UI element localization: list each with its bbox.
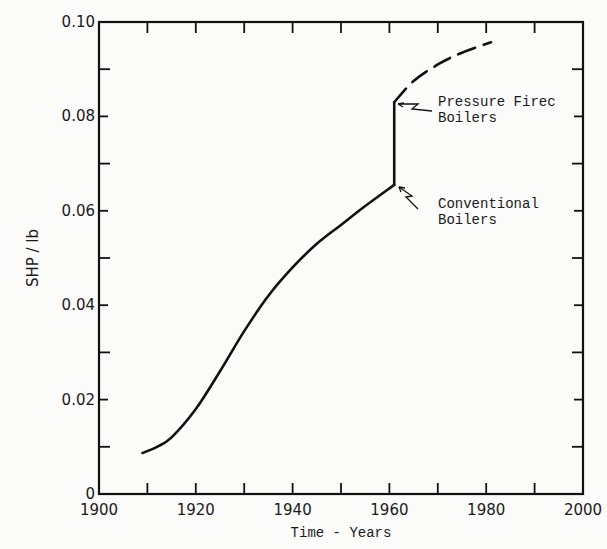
y-axis-label: SHP / lb: [24, 229, 42, 287]
x-axis-label: Time - Years: [291, 525, 392, 541]
series-line: [143, 185, 395, 453]
y-tick-label: 0: [85, 485, 95, 503]
arrowhead-icon: [398, 103, 404, 107]
tick-labels: 19001920194019601980200000.020.040.060.0…: [62, 13, 603, 519]
plot-frame: [99, 22, 583, 494]
y-tick-label: 0.02: [62, 391, 95, 409]
x-tick-label: 1960: [370, 501, 408, 519]
annotation-conventional-line2: Boilers: [438, 212, 497, 228]
y-tick-label: 0.06: [62, 202, 95, 220]
annotation-pressure-line1: Pressure Firec: [438, 94, 556, 110]
chart: 19001920194019601980200000.020.040.060.0…: [0, 0, 607, 549]
annotation-pressure-line2: Boilers: [438, 110, 497, 126]
arrow-conventional: [399, 187, 418, 209]
x-tick-label: 1940: [274, 501, 312, 519]
annotation-conventional-line1: Conventional: [438, 196, 539, 212]
arrow-pressure-fired: [398, 104, 432, 111]
x-tick-label: 1920: [177, 501, 215, 519]
x-tick-label: 1900: [80, 501, 118, 519]
ticks: [99, 22, 583, 494]
x-tick-label: 2000: [564, 501, 602, 519]
x-tick-label: 1980: [467, 501, 505, 519]
y-tick-label: 0.10: [62, 13, 95, 31]
y-tick-label: 0.08: [62, 107, 95, 125]
y-tick-label: 0.04: [62, 296, 95, 314]
